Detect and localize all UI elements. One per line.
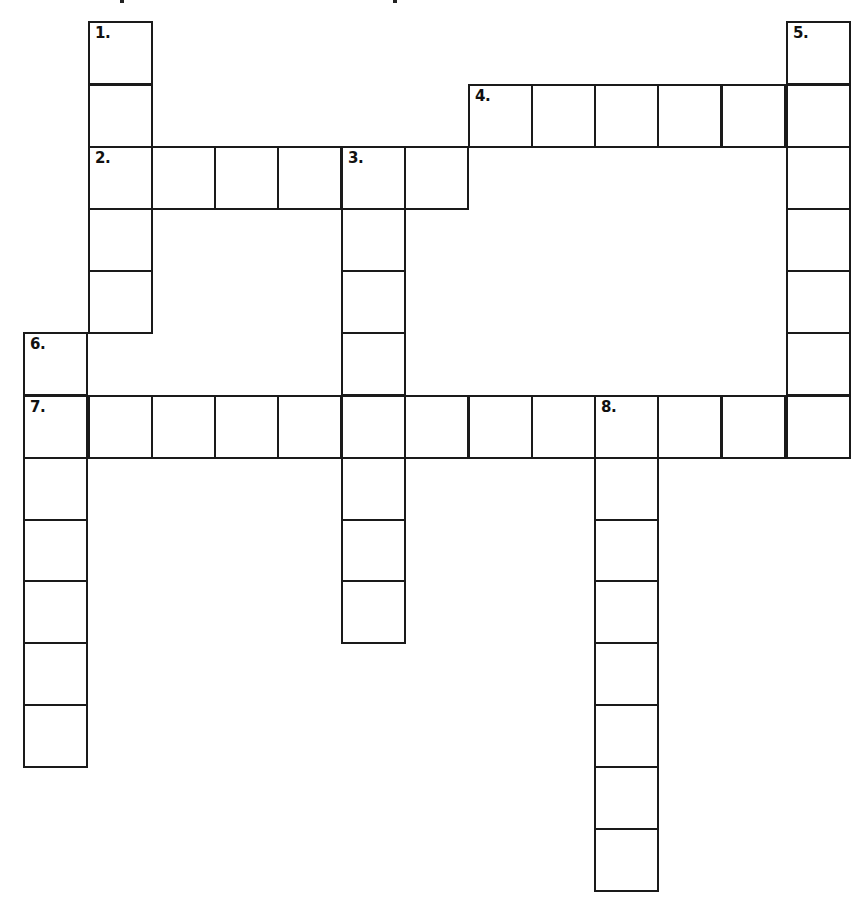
letter-input[interactable]: [153, 148, 214, 208]
crossword-cell[interactable]: [151, 395, 216, 459]
crossword-cell[interactable]: [341, 519, 406, 583]
crossword-cell[interactable]: [88, 84, 153, 148]
crossword-cell[interactable]: [23, 457, 88, 521]
crossword-cell[interactable]: [214, 395, 279, 459]
letter-input[interactable]: [533, 397, 594, 457]
letter-input[interactable]: [406, 148, 467, 208]
letter-input[interactable]: [25, 644, 86, 704]
crossword-cell[interactable]: [341, 270, 406, 334]
letter-input[interactable]: [343, 210, 404, 270]
crossword-cell[interactable]: [341, 395, 406, 459]
letter-input[interactable]: [788, 397, 849, 457]
letter-input[interactable]: [470, 397, 531, 457]
crossword-cell[interactable]: [786, 395, 851, 459]
crossword-cell[interactable]: [786, 270, 851, 334]
crossword-cell[interactable]: [657, 84, 722, 148]
crossword-cell[interactable]: [277, 395, 342, 459]
letter-input[interactable]: [343, 521, 404, 581]
crossword-cell[interactable]: 6.: [23, 332, 88, 396]
letter-input[interactable]: [723, 397, 784, 457]
crossword-cell[interactable]: 4.: [468, 84, 533, 148]
letter-input[interactable]: [788, 86, 849, 146]
letter-input[interactable]: [596, 830, 657, 890]
letter-input[interactable]: [343, 397, 404, 457]
letter-input[interactable]: [343, 148, 404, 208]
letter-input[interactable]: [153, 397, 214, 457]
crossword-cell[interactable]: [341, 208, 406, 272]
crossword-cell[interactable]: [468, 395, 533, 459]
letter-input[interactable]: [90, 397, 151, 457]
letter-input[interactable]: [788, 23, 849, 83]
crossword-cell[interactable]: [23, 642, 88, 706]
letter-input[interactable]: [406, 397, 467, 457]
letter-input[interactable]: [25, 582, 86, 642]
letter-input[interactable]: [596, 459, 657, 519]
letter-input[interactable]: [90, 210, 151, 270]
letter-input[interactable]: [659, 397, 720, 457]
crossword-cell[interactable]: [341, 457, 406, 521]
letter-input[interactable]: [596, 86, 657, 146]
letter-input[interactable]: [659, 86, 720, 146]
letter-input[interactable]: [596, 582, 657, 642]
crossword-cell[interactable]: [594, 642, 659, 706]
crossword-cell[interactable]: [151, 146, 216, 210]
letter-input[interactable]: [90, 148, 151, 208]
crossword-cell[interactable]: [594, 580, 659, 644]
crossword-cell[interactable]: [404, 146, 469, 210]
letter-input[interactable]: [788, 210, 849, 270]
crossword-cell[interactable]: [786, 84, 851, 148]
letter-input[interactable]: [90, 272, 151, 332]
letter-input[interactable]: [596, 397, 657, 457]
crossword-cell[interactable]: [594, 766, 659, 830]
crossword-cell[interactable]: 2.: [88, 146, 153, 210]
crossword-cell[interactable]: [786, 208, 851, 272]
letter-input[interactable]: [788, 148, 849, 208]
letter-input[interactable]: [343, 272, 404, 332]
letter-input[interactable]: [788, 272, 849, 332]
crossword-cell[interactable]: [721, 84, 786, 148]
crossword-cell[interactable]: [531, 84, 596, 148]
letter-input[interactable]: [25, 397, 86, 457]
letter-input[interactable]: [596, 521, 657, 581]
crossword-cell[interactable]: 5.: [786, 21, 851, 85]
letter-input[interactable]: [25, 459, 86, 519]
crossword-cell[interactable]: [594, 704, 659, 768]
crossword-cell[interactable]: [277, 146, 342, 210]
letter-input[interactable]: [25, 706, 86, 766]
crossword-cell[interactable]: [23, 704, 88, 768]
crossword-cell[interactable]: 7.: [23, 395, 88, 459]
letter-input[interactable]: [25, 334, 86, 394]
crossword-cell[interactable]: [721, 395, 786, 459]
letter-input[interactable]: [470, 86, 531, 146]
letter-input[interactable]: [279, 397, 340, 457]
crossword-cell[interactable]: [88, 208, 153, 272]
letter-input[interactable]: [216, 397, 277, 457]
crossword-cell[interactable]: 8.: [594, 395, 659, 459]
crossword-cell[interactable]: [786, 332, 851, 396]
crossword-cell[interactable]: [531, 395, 596, 459]
crossword-cell[interactable]: [23, 519, 88, 583]
crossword-cell[interactable]: [88, 395, 153, 459]
letter-input[interactable]: [279, 148, 340, 208]
letter-input[interactable]: [723, 86, 784, 146]
letter-input[interactable]: [788, 334, 849, 394]
letter-input[interactable]: [216, 148, 277, 208]
letter-input[interactable]: [596, 768, 657, 828]
letter-input[interactable]: [343, 334, 404, 394]
letter-input[interactable]: [596, 706, 657, 766]
crossword-cell[interactable]: 3.: [341, 146, 406, 210]
crossword-cell[interactable]: [594, 84, 659, 148]
crossword-cell[interactable]: [786, 146, 851, 210]
letter-input[interactable]: [343, 459, 404, 519]
letter-input[interactable]: [343, 582, 404, 642]
crossword-cell[interactable]: [657, 395, 722, 459]
crossword-cell[interactable]: [594, 828, 659, 892]
crossword-cell[interactable]: [594, 457, 659, 521]
crossword-cell[interactable]: [404, 395, 469, 459]
crossword-cell[interactable]: [23, 580, 88, 644]
crossword-cell[interactable]: 1.: [88, 21, 153, 85]
crossword-cell[interactable]: [341, 580, 406, 644]
crossword-cell[interactable]: [214, 146, 279, 210]
crossword-cell[interactable]: [341, 332, 406, 396]
crossword-cell[interactable]: [594, 519, 659, 583]
